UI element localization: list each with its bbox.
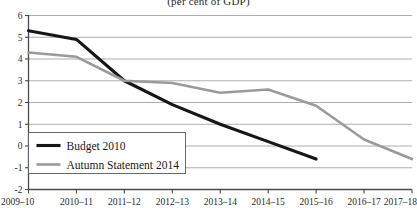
- x-tick-label: 2017–18: [384, 197, 417, 207]
- chart-plot-area: 6543210-1-2 2009–102010–112011–122012–13…: [0, 0, 417, 208]
- x-tick-label: 2014–15: [252, 197, 286, 207]
- x-tick-label: 2013–14: [204, 197, 238, 207]
- x-tick-label: 2010–11: [60, 197, 93, 207]
- y-tick-label: 1: [18, 120, 23, 130]
- x-tick-label: 2011–12: [108, 197, 141, 207]
- y-tick-label: -1: [15, 163, 23, 173]
- y-tick-label: 6: [18, 11, 23, 21]
- x-tick-label: 2009–10: [1, 197, 35, 207]
- x-tick-label: 2015–16: [300, 197, 334, 207]
- y-tick-label: 0: [18, 141, 23, 151]
- y-axis-tick-labels: 6543210-1-2: [15, 11, 23, 195]
- y-tick-label: 2: [18, 98, 23, 108]
- legend-label-autumn: Autumn Statement 2014: [67, 159, 180, 171]
- legend-label-budget: Budget 2010: [67, 140, 126, 153]
- x-tick-label: 2016–17: [347, 197, 381, 207]
- line-chart: (per cent of GDP) 6543210-1-2 2009–10201…: [0, 0, 417, 208]
- x-axis-tick-labels: 2009–102010–112011–122012–132013–142014–…: [1, 197, 417, 207]
- chart-legend[interactable]: Budget 2010Autumn Statement 2014: [29, 133, 186, 174]
- y-tick-label: 4: [18, 54, 23, 64]
- y-tick-label: -2: [15, 185, 23, 195]
- y-tick-label: 5: [18, 33, 23, 43]
- x-tick-label: 2012–13: [156, 197, 190, 207]
- y-tick-label: 3: [18, 76, 23, 86]
